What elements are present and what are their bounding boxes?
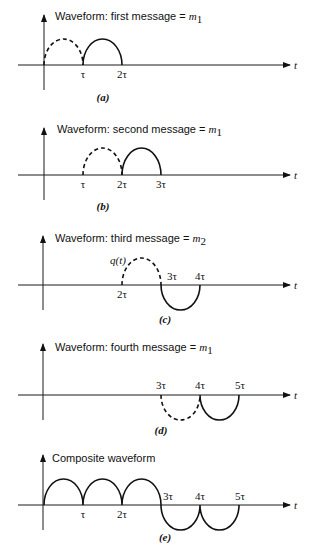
panel-caption: (c) [159, 313, 171, 326]
panel-caption: (d) [155, 424, 168, 437]
solid-pulse [83, 39, 122, 65]
dashed-pulse [83, 148, 122, 175]
tick-label: τ [81, 68, 86, 80]
tick-label: 2τ [117, 68, 128, 80]
t-axis-label: t [294, 59, 298, 71]
q-t-annotation: q(t) [110, 254, 126, 267]
tick-label: 2τ [117, 508, 128, 520]
panel-c: t Waveform: third message = m2 q(t) 2τ 3… [18, 232, 298, 326]
tick-label: 2τ [117, 178, 128, 190]
solid-pulse-negative [200, 395, 239, 420]
tick-label: 2τ [117, 288, 128, 300]
dashed-pulse-negative [161, 395, 200, 420]
tick-label: 4τ [195, 270, 206, 282]
panel-caption: (b) [97, 200, 110, 213]
tick-label: 4τ [195, 490, 206, 502]
tick-label: 3τ [156, 178, 167, 190]
tick-label: 4τ [195, 379, 206, 391]
panel-e: t Composite waveform τ 2τ 3τ 4τ 5τ (e) [18, 452, 298, 544]
panel-title: Waveform: third message = m2 [55, 232, 206, 247]
tick-label: 5τ [235, 490, 246, 502]
tick-label: 3τ [167, 270, 178, 282]
panel-b: t Waveform: second message = m1 τ 2τ 3τ … [18, 123, 298, 213]
tick-label: 3τ [156, 379, 167, 391]
panel-caption: (e) [159, 531, 171, 544]
solid-pulse-negative [161, 285, 200, 310]
panel-title: Composite waveform [52, 452, 155, 464]
tick-label: 3τ [163, 490, 174, 502]
t-axis-label: t [294, 169, 298, 181]
panel-a: t Waveform: first message = m1 τ 2τ (a) [18, 10, 298, 104]
tick-label: τ [81, 178, 86, 190]
tick-label: τ [81, 508, 86, 520]
panel-title: Waveform: first message = m1 [55, 10, 202, 25]
solid-pulse [122, 148, 161, 175]
waveform-diagram: t Waveform: first message = m1 τ 2τ (a) … [0, 0, 312, 550]
t-axis-label: t [294, 279, 298, 291]
dashed-pulse [122, 258, 161, 285]
tick-label: 5τ [235, 379, 246, 391]
panel-title: Waveform: fourth message = m1 [55, 341, 213, 356]
t-axis-label: t [294, 389, 298, 401]
panel-title: Waveform: second message = m1 [57, 123, 222, 138]
dashed-pulse [44, 39, 83, 65]
panel-d: t Waveform: fourth message = m1 3τ 4τ 5τ… [18, 341, 298, 437]
t-axis-label: t [294, 499, 298, 511]
panel-caption: (a) [97, 91, 110, 104]
